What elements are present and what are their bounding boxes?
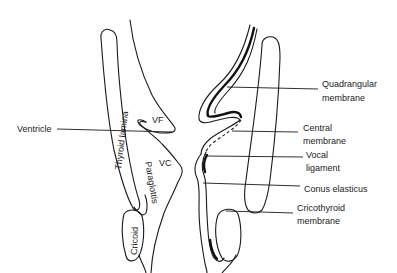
cricoid-right: [216, 209, 241, 261]
thyroid-lamina-right: [245, 37, 280, 213]
cricothyroid-label-1: Cricothyroid: [297, 203, 345, 213]
cricoid-label: Cricoid: [129, 227, 140, 255]
left-outer-lower-line: [139, 255, 146, 273]
central-label-2: membrane: [303, 136, 346, 146]
larynx-diagram: Thyroid lamina Paraglottis Cricoid VF VC…: [0, 0, 397, 273]
quadrangular-membrane-outer: [199, 25, 250, 123]
paraglottis-boundary: [134, 195, 147, 215]
vocal-label-2: ligament: [306, 163, 341, 173]
ventricle-label: Ventricle: [17, 124, 52, 134]
vocal-label-1: Vocal: [306, 150, 328, 160]
thyroid-lamina-label: Thyroid lamina: [113, 110, 130, 170]
conus-leader: [203, 183, 300, 186]
quadrangular-label-2: membrane: [322, 93, 365, 103]
cricothyroid-label-2: membrane: [297, 216, 340, 226]
quadrangular-membrane: [208, 28, 254, 117]
vocal-leader: [206, 156, 303, 157]
vc-label: VC: [159, 158, 172, 168]
central-leader: [232, 131, 298, 132]
ventricle-leader: [57, 129, 172, 132]
central-membrane: [205, 120, 241, 155]
central-label-1: Central: [303, 123, 332, 133]
quadrangular-leader: [227, 87, 318, 89]
vocal-ligament: [204, 155, 207, 172]
quadrangular-label-1: Quadrangular: [322, 79, 377, 89]
vf-label: VF: [152, 115, 164, 125]
conus-elasticus-lower: [210, 240, 217, 259]
conus-elasticus: [202, 152, 224, 261]
conus-label: Conus elasticus: [304, 184, 368, 194]
